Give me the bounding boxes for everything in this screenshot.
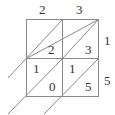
cell-r2c1-tens: 1 <box>33 61 40 76</box>
cell-r2c2-ones: 5 <box>85 79 92 94</box>
diagonal-2b <box>63 20 99 59</box>
right-digit-2: 5 <box>104 73 111 88</box>
cell-r2c1-ones: 0 <box>49 79 56 94</box>
right-digit-1: 1 <box>104 33 111 48</box>
cell-r1c1-ones: 2 <box>48 42 55 57</box>
top-digit-2: 3 <box>76 2 83 17</box>
cell-r2c2-tens: 1 <box>69 61 76 76</box>
cell-r1c2-ones: 3 <box>85 42 92 57</box>
top-digit-1: 2 <box>39 2 46 17</box>
lattice-diagram: 2 3 1 5 2 3 1 0 1 5 <box>0 0 115 115</box>
